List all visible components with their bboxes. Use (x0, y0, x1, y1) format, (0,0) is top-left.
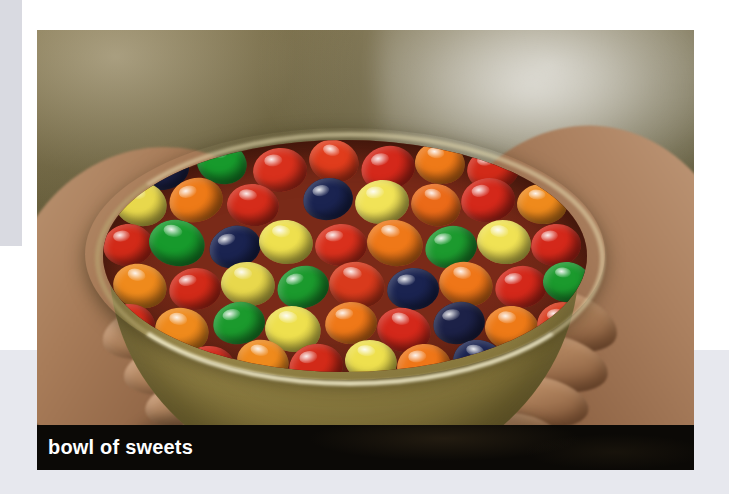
photo-card: bowl of sweets (37, 30, 694, 470)
bowl-interior (103, 140, 587, 372)
bowl (85, 88, 605, 460)
background-gray-band-left (0, 0, 22, 246)
photo-caption-text: bowl of sweets (48, 436, 193, 459)
photo-caption-bar: bowl of sweets (37, 425, 694, 470)
photograph: bowl of sweets (37, 30, 694, 470)
